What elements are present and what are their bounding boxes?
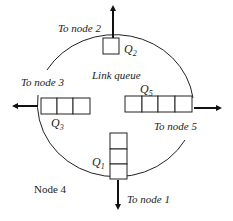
queue-label-q1: Q1: [92, 155, 105, 171]
label-to-node-2: To node 2: [58, 22, 101, 34]
queue-q5: [125, 96, 192, 112]
queue-q2: [103, 38, 119, 54]
link-queue-diagram: Q2 Q3 Q5 Q1 To node 2 To node 3 To node …: [0, 0, 233, 221]
queue-label-q5: Q5: [140, 82, 153, 98]
queue-label-q2: Q2: [124, 42, 137, 58]
queue-label-q3: Q3: [51, 116, 64, 132]
label-to-node-3: To node 3: [21, 76, 64, 88]
node-label: Node 4: [34, 183, 67, 195]
label-to-node-5: To node 5: [154, 120, 197, 132]
label-to-node-1: To node 1: [127, 193, 170, 205]
link-queue-title: Link queue: [91, 69, 141, 81]
queue-q1: [110, 133, 127, 179]
node-boundary-arc-upper: [47, 35, 193, 98]
queue-q3: [41, 98, 90, 114]
